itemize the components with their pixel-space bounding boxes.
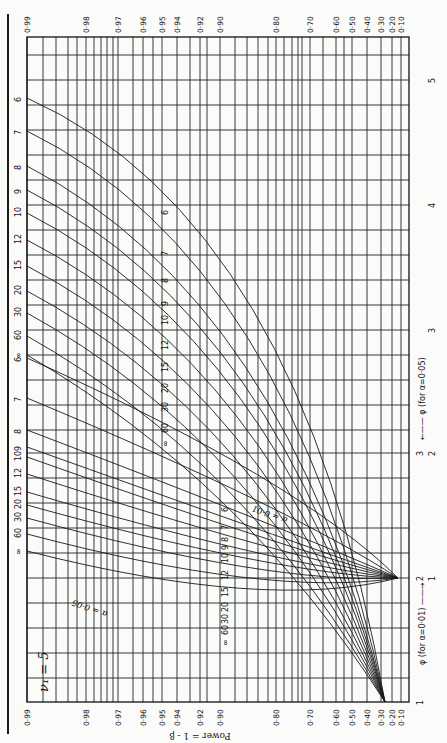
curve-label-left-nu2-30: 30: [14, 512, 23, 522]
power-curve-alpha05-nu2-8: [27, 166, 385, 702]
power-tick-bottom: 0·70: [306, 709, 315, 726]
phi-alpha01-tick: 2: [416, 576, 425, 581]
phi-alpha05-tick: 4: [428, 203, 437, 208]
curve-label-mid-nu2-7: 7: [221, 525, 230, 530]
curve-label-mid-nu2-15: 15: [161, 362, 170, 372]
power-curve-alpha01-nu2-20: [27, 505, 398, 578]
power-tick-bottom: 0·20: [388, 709, 397, 726]
phi-alpha05-tick: 3: [428, 328, 437, 333]
power-tick-bottom: 0·90: [216, 709, 225, 726]
power-tick-bottom: 0·96: [139, 709, 148, 726]
curve-label-left-nu2-10: 10: [14, 207, 23, 217]
power-curve-alpha01-nu2-∞: [27, 551, 398, 590]
curve-label-mid-nu2-8: 8: [221, 537, 230, 542]
power-tick-bottom: 0·97: [114, 709, 123, 726]
phi-alpha05-tick: 1: [428, 576, 437, 581]
curve-label-mid-nu2-60: 60: [161, 423, 170, 433]
power-tick-top: 0·95: [158, 16, 167, 33]
curve-label-mid-nu2-9: 9: [221, 545, 230, 550]
curve-label-mid-nu2-12: 12: [161, 340, 170, 350]
power-tick-top: 0·10: [397, 16, 406, 33]
power-tick-top: 0·94: [173, 16, 182, 33]
curve-label-left-nu2-9: 9: [14, 446, 23, 451]
curve-label-left-nu2-15: 15: [14, 486, 23, 496]
phi-alpha05-tick: 2: [428, 451, 437, 456]
power-tick-top: 0·98: [82, 16, 91, 33]
curve-label-mid-nu2-30: 30: [221, 614, 230, 624]
power-curve-alpha05-nu2-∞: [27, 355, 385, 702]
power-tick-bottom: 0·10: [397, 709, 406, 726]
power-tick-bottom: 0·60: [332, 709, 341, 726]
power-axis-title: Power = 1 - β: [169, 731, 230, 741]
power-tick-top: 0·96: [139, 16, 148, 33]
curve-label-mid-nu2-10: 10: [161, 315, 170, 325]
curve-label-left-nu2-9: 9: [14, 189, 23, 194]
curve-label-left-nu2-8: 8: [14, 429, 23, 434]
curve-label-left-nu2-20: 20: [14, 499, 23, 509]
power-tick-bottom: 0·94: [173, 709, 182, 726]
power-tick-top: 0·60: [332, 16, 341, 33]
power-tick-top: 0·40: [363, 16, 372, 33]
curve-label-mid-nu2-6: 6: [161, 210, 170, 215]
power-tick-top: 0·92: [196, 16, 205, 33]
curve-label-left-nu2-12: 12: [14, 468, 23, 478]
power-tick-bottom: 0·40: [363, 709, 372, 726]
power-tick-top: 0·30: [377, 16, 386, 33]
phi-alpha01-axis-title: φ (for α=0·01) ——→: [418, 582, 427, 665]
power-tick-top: 0·20: [388, 16, 397, 33]
curve-label-left-nu2-6: 6: [14, 97, 23, 102]
power-tick-bottom: 0·99: [23, 709, 32, 726]
power-curve-alpha05-nu2-12: [27, 240, 385, 702]
power-tick-top: 0·97: [114, 16, 123, 33]
curve-label-left-nu2-7: 7: [14, 397, 23, 402]
phi-alpha01-tick: 3: [416, 451, 425, 456]
power-tick-top: 0·50: [348, 16, 357, 33]
curve-label-left-nu2-15: 15: [14, 260, 23, 270]
alpha-005-label: α = 0·05: [70, 597, 108, 619]
curve-label-left-nu2-6: 6: [14, 357, 23, 362]
power-tick-top: 0·80: [272, 16, 281, 33]
phi-alpha05-tick: 5: [428, 78, 437, 83]
power-curve-alpha05-nu2-10: [27, 213, 385, 702]
phi-alpha01-tick: 1: [416, 700, 425, 705]
power-tick-bottom: 0·50: [348, 709, 357, 726]
curve-label-left-nu2-7: 7: [14, 130, 23, 135]
curve-label-left-nu2-8: 8: [14, 165, 23, 170]
curve-label-mid-nu2-∞: ∞: [161, 440, 170, 447]
curve-label-mid-nu2-60: 60: [221, 625, 230, 635]
nu1-label: ν₁ = 5: [36, 651, 51, 692]
curve-label-left-nu2-12: 12: [14, 234, 23, 244]
curve-label-mid-nu2-6: 6: [221, 507, 230, 512]
curve-label-mid-nu2-8: 8: [161, 278, 170, 283]
curve-label-left-nu2-10: 10: [14, 451, 23, 461]
power-tick-bottom: 0·98: [82, 709, 91, 726]
power-curve-alpha01-nu2-15: [27, 492, 398, 578]
curve-label-mid-nu2-∞: ∞: [221, 639, 230, 646]
power-tick-bottom: 0·95: [158, 709, 167, 726]
phi-alpha05-axis-title: ←—— φ (for α=0·05): [418, 357, 427, 440]
power-tick-top: 0·99: [23, 16, 32, 33]
power-curve-alpha05-nu2-20: [27, 291, 385, 702]
curve-label-left-nu2-20: 20: [14, 285, 23, 295]
curve-label-mid-nu2-20: 20: [221, 602, 230, 612]
curve-label-mid-nu2-30: 30: [161, 402, 170, 412]
curve-label-left-nu2-60: 60: [14, 330, 23, 340]
power-curve-alpha01-nu2-8: [27, 430, 398, 578]
curve-label-mid-nu2-15: 15: [221, 587, 230, 597]
curve-label-mid-nu2-20: 20: [161, 383, 170, 393]
curve-label-left-nu2-∞: ∞: [14, 548, 23, 555]
power-tick-top: 0·90: [216, 16, 225, 33]
curve-label-mid-nu2-7: 7: [161, 251, 170, 256]
power-tick-bottom: 0·30: [377, 709, 386, 726]
curve-label-mid-nu2-9: 9: [161, 301, 170, 306]
curve-label-left-nu2-60: 60: [14, 528, 23, 538]
curve-label-mid-nu2-10: 10: [221, 553, 230, 563]
curve-label-left-nu2-30: 30: [14, 307, 23, 317]
power-tick-bottom: 0·92: [196, 709, 205, 726]
curve-label-mid-nu2-12: 12: [221, 570, 230, 580]
power-tick-top: 0·70: [306, 16, 315, 33]
power-tick-bottom: 0·80: [272, 709, 281, 726]
power-chart: 0·990·990·980·980·970·970·960·960·950·95…: [0, 0, 447, 743]
power-curve-alpha01-nu2-9: [27, 447, 398, 578]
